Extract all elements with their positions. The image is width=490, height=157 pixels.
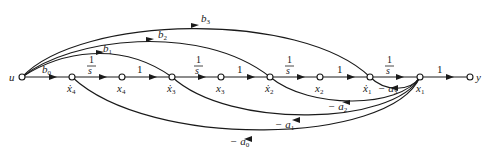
- arrow-icon: [99, 74, 107, 80]
- svg-text:s: s: [386, 65, 390, 76]
- label-x1dot: ẋ1: [362, 82, 372, 96]
- node-x3: [218, 74, 224, 80]
- gain-int4: 1 s: [87, 54, 96, 76]
- label-x1: x1: [415, 82, 425, 96]
- label-x2dot: ẋ2: [264, 82, 274, 96]
- gain-int2: 1 s: [285, 54, 294, 76]
- label-x4: x4: [116, 82, 126, 96]
- gain-one4: 1: [137, 63, 143, 75]
- gain-int1: 1 s: [385, 54, 394, 76]
- gain-b0: b0: [42, 63, 52, 77]
- node-x2dot: [267, 74, 273, 80]
- gain-one3: 1: [237, 63, 243, 75]
- label-y: y: [475, 71, 481, 83]
- arrow-icon: [247, 74, 255, 80]
- gain-minus-a0: − a0: [230, 135, 250, 149]
- label-u: u: [9, 71, 15, 83]
- gain-minus-a3-text: − a3: [378, 82, 398, 96]
- arrow-icon: [292, 117, 300, 123]
- arrow-icon: [149, 74, 157, 80]
- label-x3: x3: [215, 82, 225, 96]
- gain-one2: 1: [337, 63, 343, 75]
- arrow-icon: [297, 74, 305, 80]
- node-x4dot: [69, 74, 75, 80]
- label-x4dot: ẋ4: [66, 82, 76, 96]
- svg-text:1: 1: [287, 54, 292, 65]
- signal-flow-graph: u ẋ4 x4 ẋ3 x3 ẋ2 x2 ẋ1 x1 y b0 1 s 1 1 s…: [0, 0, 490, 157]
- svg-text:s: s: [88, 65, 92, 76]
- node-y: [467, 74, 473, 80]
- svg-text:1: 1: [89, 54, 94, 65]
- arrow-icon: [396, 74, 404, 80]
- gain-out: 1: [437, 63, 443, 75]
- svg-text:1: 1: [196, 54, 201, 65]
- node-x4: [119, 74, 125, 80]
- arrow-icon: [446, 74, 454, 80]
- arrow-icon: [198, 74, 206, 80]
- label-x3dot: ẋ3: [166, 82, 176, 96]
- svg-text:s: s: [195, 65, 199, 76]
- node-x2: [317, 74, 323, 80]
- arrow-icon: [347, 74, 355, 80]
- node-x1: [417, 74, 423, 80]
- node-u: [19, 74, 25, 80]
- svg-text:1: 1: [387, 54, 392, 65]
- node-x3dot: [169, 74, 175, 80]
- node-x1dot: [367, 74, 373, 80]
- gain-int3: 1 s: [194, 54, 203, 76]
- svg-text:s: s: [286, 65, 290, 76]
- gain-b3: b3: [201, 12, 211, 26]
- arrow-icon: [191, 23, 199, 28]
- gain-minus-a1: − a1: [275, 118, 295, 132]
- gain-b2: b2: [158, 28, 168, 42]
- label-x2: x2: [314, 82, 324, 96]
